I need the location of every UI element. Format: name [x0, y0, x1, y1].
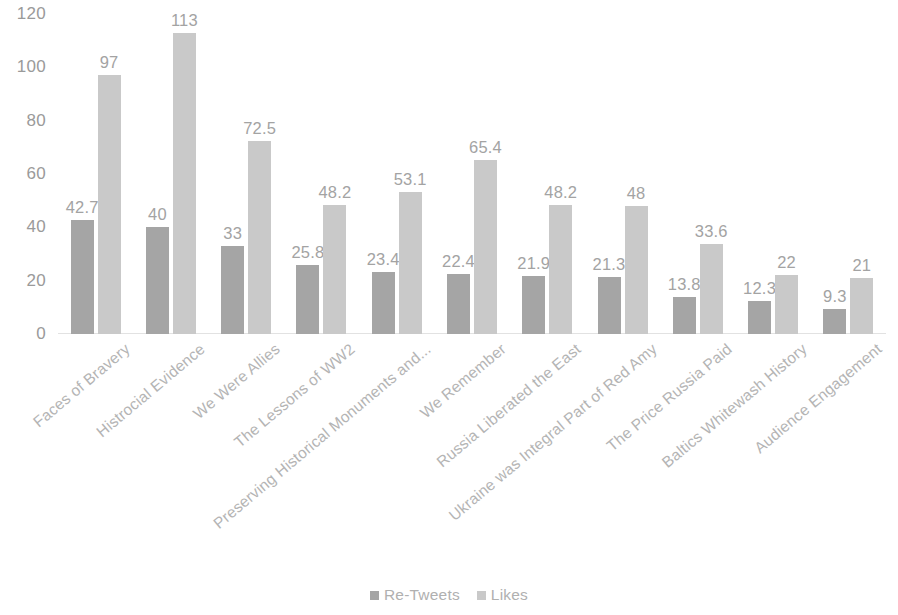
- bar-value-label: 22.4: [442, 252, 475, 271]
- bar-wrapper: 65.4: [474, 14, 497, 334]
- legend-item[interactable]: Re-Tweets: [370, 586, 460, 604]
- bar-likes[interactable]: [850, 278, 873, 334]
- y-axis-tick: 100: [17, 57, 46, 77]
- plot-area: 42.797401133372.525.848.223.453.122.465.…: [58, 14, 886, 334]
- bar-retweets[interactable]: [221, 246, 244, 334]
- bar-group: 23.453.1: [359, 14, 434, 334]
- bar-value-label: 22: [777, 253, 796, 272]
- bar-value-label: 12.3: [743, 279, 776, 298]
- legend-label: Likes: [491, 586, 528, 604]
- bar-wrapper: 21.3: [598, 14, 621, 334]
- bar-wrapper: 33.6: [700, 14, 723, 334]
- bar-wrapper: 113: [173, 14, 196, 334]
- bar-wrapper: 48.2: [323, 14, 346, 334]
- bar-value-label: 48.2: [318, 183, 351, 202]
- bar-wrapper: 72.5: [248, 14, 271, 334]
- bar-chart: 020406080100120 42.797401133372.525.848.…: [0, 0, 898, 615]
- bar-likes[interactable]: [248, 141, 271, 334]
- bar-value-label: 33: [223, 224, 242, 243]
- bar-retweets[interactable]: [296, 265, 319, 334]
- bar-group: 21.948.2: [510, 14, 585, 334]
- bar-value-label: 21.9: [517, 254, 550, 273]
- bar-group: 13.833.6: [660, 14, 735, 334]
- y-axis-tick: 60: [26, 164, 46, 184]
- bar-likes[interactable]: [323, 205, 346, 334]
- bar-group: 25.848.2: [284, 14, 359, 334]
- bar-value-label: 65.4: [469, 138, 502, 157]
- bar-wrapper: 53.1: [399, 14, 422, 334]
- bar-likes[interactable]: [775, 275, 798, 334]
- category-label: Baltics Whitewash History: [659, 340, 811, 472]
- bar-retweets[interactable]: [447, 274, 470, 334]
- bar-value-label: 72.5: [243, 119, 276, 138]
- y-axis-tick: 0: [36, 324, 46, 344]
- category-label: The Price Russia Paid: [603, 340, 735, 455]
- bar-group: 42.797: [58, 14, 133, 334]
- bar-value-label: 21: [852, 256, 871, 275]
- category-label: Russia Liberated the East: [433, 340, 584, 471]
- bar-wrapper: 13.8: [673, 14, 696, 334]
- bar-wrapper: 97: [98, 14, 121, 334]
- bar-likes[interactable]: [549, 205, 572, 334]
- bar-likes[interactable]: [700, 244, 723, 334]
- bar-likes[interactable]: [474, 160, 497, 334]
- bar-value-label: 48: [627, 184, 646, 203]
- y-axis-tick: 120: [17, 4, 46, 24]
- bar-value-label: 23.4: [367, 250, 400, 269]
- category-axis-labels: Faces of BraveryHistrocial EvidenceWe We…: [58, 334, 886, 564]
- bar-retweets[interactable]: [748, 301, 771, 334]
- bar-retweets[interactable]: [372, 272, 395, 334]
- bar-wrapper: 42.7: [71, 14, 94, 334]
- bar-wrapper: 22: [775, 14, 798, 334]
- bar-value-label: 113: [171, 11, 198, 30]
- bar-group: 3372.5: [209, 14, 284, 334]
- bar-value-label: 13.8: [668, 275, 701, 294]
- bar-group: 12.322: [735, 14, 810, 334]
- bar-retweets[interactable]: [71, 220, 94, 334]
- bar-wrapper: 25.8: [296, 14, 319, 334]
- bar-value-label: 21.3: [593, 255, 626, 274]
- legend-swatch-icon: [477, 591, 486, 600]
- bar-group: 40113: [133, 14, 208, 334]
- y-axis-tick: 40: [26, 217, 46, 237]
- bar-retweets[interactable]: [823, 309, 846, 334]
- bar-value-label: 40: [148, 205, 167, 224]
- bar-group: 9.321: [811, 14, 886, 334]
- bar-wrapper: 22.4: [447, 14, 470, 334]
- bar-wrapper: 21.9: [522, 14, 545, 334]
- bar-likes[interactable]: [173, 33, 196, 334]
- bar-wrapper: 33: [221, 14, 244, 334]
- bar-likes[interactable]: [399, 192, 422, 334]
- bar-group: 21.348: [585, 14, 660, 334]
- bar-wrapper: 21: [850, 14, 873, 334]
- bar-value-label: 33.6: [695, 222, 728, 241]
- legend-label: Re-Tweets: [384, 586, 460, 604]
- bar-value-label: 9.3: [823, 287, 847, 306]
- bar-wrapper: 23.4: [372, 14, 395, 334]
- bar-wrapper: 48.2: [549, 14, 572, 334]
- y-axis-tick: 20: [26, 271, 46, 291]
- bar-retweets[interactable]: [673, 297, 696, 334]
- y-axis-tick: 80: [26, 111, 46, 131]
- bar-value-label: 42.7: [66, 198, 99, 217]
- bar-wrapper: 40: [146, 14, 169, 334]
- bar-group: 22.465.4: [434, 14, 509, 334]
- chart-legend: Re-TweetsLikes: [0, 586, 898, 604]
- bar-value-label: 97: [100, 53, 119, 72]
- bar-value-label: 53.1: [394, 170, 427, 189]
- bar-value-label: 25.8: [291, 243, 324, 262]
- bar-value-label: 48.2: [544, 183, 577, 202]
- bar-likes[interactable]: [98, 75, 121, 334]
- bar-retweets[interactable]: [598, 277, 621, 334]
- legend-swatch-icon: [370, 591, 379, 600]
- bar-retweets[interactable]: [146, 227, 169, 334]
- category-label: Audience Engagement: [751, 340, 886, 457]
- y-axis: 020406080100120: [0, 0, 56, 345]
- bar-retweets[interactable]: [522, 276, 545, 334]
- bar-wrapper: 48: [625, 14, 648, 334]
- bar-wrapper: 9.3: [823, 14, 846, 334]
- bar-likes[interactable]: [625, 206, 648, 334]
- legend-item[interactable]: Likes: [477, 586, 528, 604]
- bar-wrapper: 12.3: [748, 14, 771, 334]
